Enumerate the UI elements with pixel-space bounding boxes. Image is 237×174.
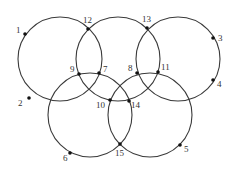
node-label: 8 bbox=[128, 63, 133, 73]
node-9 bbox=[77, 72, 81, 76]
node-7 bbox=[97, 71, 101, 75]
node-label: 3 bbox=[218, 33, 223, 43]
node-label: 14 bbox=[131, 100, 141, 110]
node-label: 12 bbox=[83, 15, 92, 25]
node-label: 11 bbox=[161, 62, 170, 72]
node-13 bbox=[145, 26, 149, 30]
node-3 bbox=[211, 36, 215, 40]
node-label: 13 bbox=[142, 14, 152, 24]
interlocking-circles-diagram: 123456789101112131415 bbox=[0, 0, 237, 174]
node-label: 10 bbox=[96, 100, 106, 110]
node-11 bbox=[156, 70, 160, 74]
node-label: 2 bbox=[18, 98, 23, 108]
node-label: 4 bbox=[217, 79, 222, 89]
node-label: 15 bbox=[115, 148, 125, 158]
node-2 bbox=[27, 96, 31, 100]
node-label: 7 bbox=[103, 64, 108, 74]
node-label: 1 bbox=[16, 25, 21, 35]
node-label: 6 bbox=[63, 153, 68, 163]
node-10 bbox=[108, 98, 112, 102]
node-5 bbox=[178, 143, 182, 147]
labels-group: 123456789101112131415 bbox=[16, 14, 223, 163]
node-4 bbox=[211, 78, 215, 82]
circles-group bbox=[18, 17, 220, 157]
node-1 bbox=[23, 32, 27, 36]
node-8 bbox=[135, 71, 139, 75]
node-6 bbox=[68, 151, 72, 155]
node-15 bbox=[118, 142, 122, 146]
node-label: 5 bbox=[184, 144, 189, 154]
node-label: 9 bbox=[70, 64, 75, 74]
circle-top-right bbox=[136, 17, 220, 101]
node-12 bbox=[86, 27, 90, 31]
